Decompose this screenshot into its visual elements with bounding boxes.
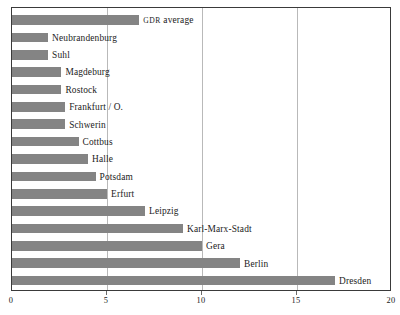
bar-label: Potsdam [100, 169, 133, 185]
tick-mark-15 [296, 291, 297, 295]
x-tick-label: 20 [386, 296, 395, 305]
x-tick-label: 10 [196, 296, 205, 305]
bar-label: Gera [206, 238, 225, 254]
bar [12, 33, 48, 43]
bar-row: Frankfurt / O. [12, 99, 390, 117]
bar [12, 172, 96, 182]
bar-row: Karl-Marx-Stadt [12, 221, 390, 239]
bar-label: Cottbus [83, 134, 113, 150]
bar-label: Leipzig [149, 203, 179, 219]
bar-row: Gera [12, 238, 390, 256]
bar-label: Halle [92, 151, 113, 167]
bar [12, 15, 139, 25]
bar [12, 154, 88, 164]
bar-row: Leipzig [12, 203, 390, 221]
bar [12, 206, 145, 216]
bar-label: GDR average [143, 12, 193, 29]
bar-row: Halle [12, 151, 390, 169]
bar-label: Rostock [65, 82, 97, 98]
bar-label: Neubrandenburg [52, 30, 117, 46]
bar-label: Karl-Marx-Stadt [187, 221, 252, 237]
plot-inner: GDR averageNeubrandenburgSuhlMagdeburgRo… [12, 8, 390, 290]
bar-chart: GDR averageNeubrandenburgSuhlMagdeburgRo… [0, 0, 400, 315]
bar-row: Rostock [12, 82, 390, 100]
bar [12, 189, 107, 199]
bar-row: Schwerin [12, 116, 390, 134]
bar-row: Neubrandenburg [12, 29, 390, 47]
bar-row: Erfurt [12, 186, 390, 204]
bar-row: Dresden [12, 273, 390, 290]
tick-mark-10 [201, 291, 202, 295]
bar [12, 102, 65, 112]
bar-label: Schwerin [69, 117, 106, 133]
plot-area: GDR averageNeubrandenburgSuhlMagdeburgRo… [11, 7, 391, 291]
tick-mark-5 [106, 291, 107, 295]
bar-row: GDR average [12, 12, 390, 30]
bar-row: Potsdam [12, 168, 390, 186]
bar [12, 137, 79, 147]
bar [12, 276, 335, 286]
x-tick-label: 15 [291, 296, 300, 305]
x-tick-label: 0 [9, 296, 14, 305]
bar-label: Dresden [339, 273, 371, 289]
bar [12, 85, 61, 95]
bar-label-smallcaps: GDR [143, 16, 161, 25]
bar-label: Frankfurt / O. [69, 99, 123, 115]
bar-row: Cottbus [12, 134, 390, 152]
bar [12, 50, 48, 60]
bar-label: Magdeburg [65, 64, 109, 80]
bar [12, 119, 65, 129]
bar-row: Magdeburg [12, 64, 390, 82]
bar [12, 224, 183, 234]
bar-label: Suhl [52, 47, 70, 63]
bar [12, 241, 202, 251]
bar [12, 67, 61, 77]
x-tick-label: 5 [104, 296, 109, 305]
bar-label: Berlin [244, 256, 268, 272]
bar [12, 258, 240, 268]
bar-row: Suhl [12, 47, 390, 65]
bar-label: Erfurt [111, 186, 134, 202]
bar-row: Berlin [12, 255, 390, 273]
